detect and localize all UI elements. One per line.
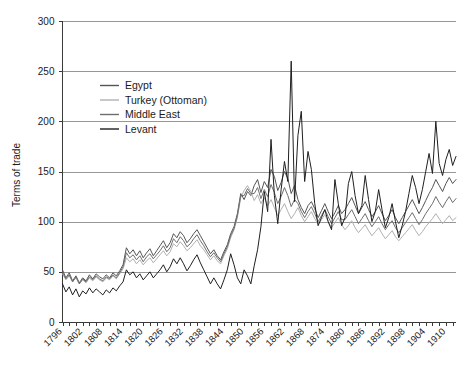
x-tick-label: 1856 (243, 326, 266, 349)
x-tick-label: 1832 (162, 326, 185, 349)
y-tick-label: 150 (38, 166, 55, 177)
y-tick-label: 50 (43, 266, 55, 277)
x-tick-label: 1814 (102, 326, 125, 349)
y-tick-label: 250 (38, 66, 55, 77)
x-tick-label: 1874 (304, 326, 327, 349)
y-axis-title: Terms of trade (11, 143, 22, 207)
legend-label: Egypt (125, 79, 152, 91)
x-tick-label: 1796 (41, 326, 64, 349)
x-tick-label: 1898 (384, 326, 407, 349)
x-tick-label: 1892 (364, 326, 387, 349)
x-tick-label: 1886 (344, 326, 367, 349)
x-tick-label: 1820 (122, 326, 145, 349)
legend-label: Middle East (125, 108, 180, 120)
x-tick-label: 1802 (61, 326, 84, 349)
y-tick-label: 100 (38, 216, 55, 227)
x-tick-label: 1910 (425, 326, 448, 349)
x-tick-label: 1850 (223, 326, 246, 349)
chart-figure: 050100150200250300 179618021808181418201… (0, 0, 472, 368)
x-tick-label: 1838 (182, 326, 205, 349)
terms-of-trade-line-chart: 050100150200250300 179618021808181418201… (0, 0, 472, 368)
series-line-levant (63, 61, 457, 297)
x-tick-label: 1844 (203, 326, 226, 349)
x-axis-ticks-group: 1796180218081814182018261832183818441850… (41, 322, 453, 348)
x-tick-label: 1862 (263, 326, 286, 349)
series-line-egypt (63, 169, 457, 282)
x-tick-label: 1808 (82, 326, 105, 349)
y-tick-label: 300 (38, 16, 55, 27)
x-tick-label: 1868 (283, 326, 306, 349)
x-tick-label: 1880 (324, 326, 347, 349)
series-group (63, 61, 457, 297)
y-axis-ticks-group: 050100150200250300 (38, 16, 63, 328)
legend: EgyptTurkey (Ottoman)Middle EastLevant (100, 79, 207, 135)
x-tick-label: 1826 (142, 326, 165, 349)
gridlines-group (63, 22, 457, 273)
x-tick-label: 1904 (404, 326, 427, 349)
legend-label: Turkey (Ottoman) (125, 94, 207, 106)
y-tick-label: 200 (38, 116, 55, 127)
legend-label: Levant (125, 123, 157, 135)
y-tick-label: 0 (49, 317, 55, 328)
